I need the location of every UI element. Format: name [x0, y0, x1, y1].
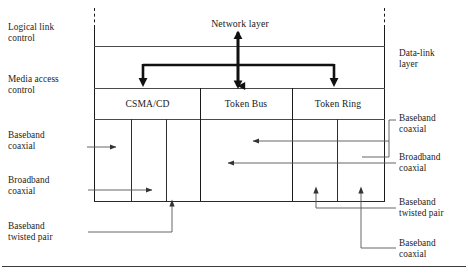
label-media-access-control: Media access control: [8, 74, 84, 97]
arrow-network-to-mac: [234, 31, 243, 90]
label-left-baseband-twisted-pair: Baseband twisted pair: [8, 221, 88, 244]
subcell-divider-tokenring-1: [337, 119, 338, 201]
frame-left-rail: [94, 27, 95, 202]
label-logical-link-control: Logical link control: [8, 22, 84, 45]
frame-right-rail: [384, 27, 385, 202]
label-right-broadband-coaxial: Broadband coaxial: [399, 152, 467, 175]
protocol-cell-token-bus: Token Bus: [201, 98, 291, 109]
leader-left-baseband-twisted-pair: [88, 200, 175, 233]
label-left-baseband-coaxial: Baseband coaxial: [8, 130, 84, 153]
subcell-divider-csma-2: [166, 119, 167, 201]
label-right-baseband-coaxial-top: Baseband coaxial: [399, 113, 465, 136]
protocol-cell-csma-cd: CSMA/CD: [96, 98, 199, 109]
network-layer-title: Network layer: [150, 18, 330, 29]
divider-protocol-bottom: [94, 119, 385, 120]
protocol-cell-token-ring: Token Ring: [293, 98, 383, 109]
label-right-baseband-coaxial-bottom: Baseband coaxial: [399, 238, 465, 261]
frame-bottom: [94, 201, 385, 202]
diagram-canvas: Logical link control Media access contro…: [0, 0, 468, 274]
page-bottom-rule: [2, 266, 466, 267]
label-data-link-layer: Data-link layer: [399, 48, 465, 71]
divider-llc-top: [94, 46, 385, 47]
frame-dashed-left-top: [94, 8, 95, 28]
arrow-mac-distribution-bus: [139, 64, 339, 87]
divider-mac-top: [94, 88, 385, 89]
leader-right-baseband-coaxial-bottom: [358, 187, 396, 249]
label-right-baseband-twisted-pair: Baseband twisted pair: [399, 197, 468, 220]
leader-right-baseband-coaxial-top: [253, 120, 396, 157]
subcell-divider-csma-1: [131, 119, 132, 201]
frame-dashed-right-top: [384, 8, 385, 28]
label-left-broadband-coaxial: Broadband coaxial: [8, 175, 86, 198]
